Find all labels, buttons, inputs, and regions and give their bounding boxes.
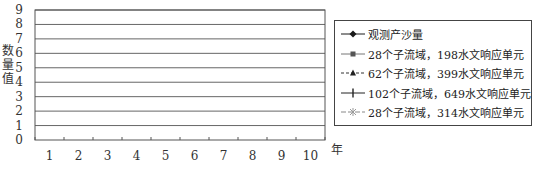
x-tick-label: 6 — [191, 149, 199, 163]
plot-area — [35, 10, 325, 140]
legend-label: 28个子流域，198水文响应单元 — [368, 46, 524, 62]
legend-label: 62个子流域，399水文响应单元 — [368, 65, 524, 81]
legend-label: 102个子流域，649水文响应单元 — [368, 85, 531, 101]
x-axis-label: 年 — [331, 140, 343, 157]
legend-item-649: 102个子流域，649水文响应单元 — [341, 84, 531, 102]
x-tick-label: 5 — [162, 149, 170, 163]
y-axis-label-char: 值 — [2, 72, 16, 86]
legend-item-314: 28个子流域，314水文响应单元 — [341, 103, 524, 121]
y-tick-label: 6 — [15, 46, 23, 60]
y-tick-label: 0 — [15, 133, 23, 147]
y-tick-label: 1 — [15, 119, 23, 133]
y-tick-label: 8 — [15, 17, 23, 31]
diamond-marker-icon — [341, 29, 365, 39]
x-tick-label: 10 — [303, 149, 318, 163]
y-axis-label-char: 数 — [2, 44, 16, 58]
triangle-marker-icon — [341, 68, 365, 78]
legend-item-399: 62个子流域，399水文响应单元 — [341, 64, 524, 82]
gridlines — [35, 10, 325, 126]
x-tick-label: 1 — [46, 149, 54, 163]
x-tick-label: 4 — [133, 149, 141, 163]
chart-legend: 观测产沙量 28个子流域，198水文响应单元 62个子流域，399水文响应单元 … — [334, 20, 532, 126]
x-tick-label: 9 — [278, 149, 286, 163]
x-tick-label: 3 — [104, 149, 112, 163]
x-tick-label: 7 — [220, 149, 228, 163]
y-tick-label: 7 — [15, 32, 23, 46]
legend-item-observed: 观测产沙量 — [341, 25, 423, 43]
y-tick-label: 4 — [15, 75, 23, 89]
x-axis-ticks: 12345678910 — [35, 137, 325, 163]
y-axis-ticks: 0123456789 — [15, 3, 23, 147]
y-tick-label: 5 — [15, 61, 23, 75]
y-axis-label-char: 量 — [2, 58, 16, 72]
y-tick-label: 2 — [15, 104, 23, 118]
legend-item-198: 28个子流域，198水文响应单元 — [341, 45, 524, 63]
star-marker-icon — [341, 107, 365, 117]
plus-marker-icon — [341, 88, 365, 98]
legend-label: 28个子流域，314水文响应单元 — [368, 104, 524, 120]
square-marker-icon — [341, 49, 365, 59]
y-axis-label: 数 量 值 — [2, 44, 16, 86]
y-tick-label: 9 — [15, 3, 23, 17]
x-tick-label: 2 — [75, 149, 83, 163]
legend-label: 观测产沙量 — [368, 26, 423, 42]
x-tick-label: 8 — [249, 149, 257, 163]
y-tick-label: 3 — [15, 90, 23, 104]
